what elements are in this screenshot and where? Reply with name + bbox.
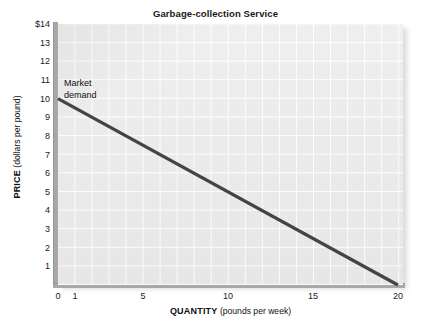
y-axis-tick-labels: $1413121110987654321: [0, 0, 50, 330]
plot-area-wrapper: [58, 24, 403, 285]
y-tick-label: 13: [6, 38, 50, 48]
x-axis-title: QUANTITY (pounds per week): [58, 306, 403, 316]
y-tick-label: 12: [6, 56, 50, 66]
demand-curve-svg: [58, 24, 403, 285]
market-demand-annotation-line1: Market: [64, 78, 97, 90]
y-axis-title-rest: (dollars per pound): [12, 95, 22, 170]
chart-title: Garbage-collection Service: [0, 8, 431, 19]
market-demand-annotation-line2: demand: [64, 90, 97, 102]
x-tick-label: 1: [72, 291, 77, 301]
x-tick-label: 10: [223, 291, 233, 301]
y-axis-title-bold: PRICE: [12, 170, 22, 199]
x-tick-label: 20: [393, 291, 403, 301]
x-tick-label: 0: [55, 291, 60, 301]
x-tick-label: 5: [140, 291, 145, 301]
market-demand-annotation: Market demand: [64, 78, 97, 101]
x-axis-title-rest: (pounds per week): [218, 306, 292, 316]
demand-curve: [58, 99, 398, 285]
y-tick-label: $14: [6, 19, 50, 29]
x-tick-label: 15: [308, 291, 318, 301]
x-axis-title-bold: QUANTITY: [170, 306, 218, 316]
y-tick-label: 3: [6, 224, 50, 234]
y-tick-label: 2: [6, 243, 50, 253]
y-tick-label: 1: [6, 261, 50, 271]
chart-figure: Garbage-collection Service $141312111098…: [0, 0, 431, 330]
y-axis-title: PRICE (dollars per pound): [12, 82, 22, 212]
